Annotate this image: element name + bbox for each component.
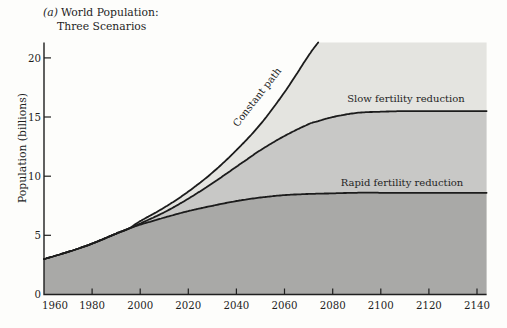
y-tick-label-10: 10 [28, 171, 41, 182]
band-rapid-scenario [44, 193, 487, 295]
x-tick-label-2120: 2120 [416, 300, 442, 311]
x-tick-label-2020: 2020 [175, 300, 201, 311]
figure-world-population-three-scenarios: 0510152019601980200020202040206020802100… [0, 0, 507, 328]
x-tick-label-2060: 2060 [272, 300, 298, 311]
x-tick-label-1960: 1960 [42, 300, 68, 311]
y-tick-label-0: 0 [35, 289, 41, 300]
y-tick-label-5: 5 [35, 230, 41, 241]
population-chart-svg: 0510152019601980200020202040206020802100… [0, 0, 507, 328]
x-tick-label-2000: 2000 [127, 300, 153, 311]
panel-letter: (a) [43, 6, 58, 19]
annotation-rapid-fertility-reduction: Rapid fertility reduction [341, 177, 464, 188]
x-tick-label-2080: 2080 [320, 300, 346, 311]
x-tick-label-2040: 2040 [223, 300, 249, 311]
chart-title: (a)World Population: Three Scenarios [43, 6, 159, 33]
y-tick-label-20: 20 [28, 53, 41, 64]
chart-title-line1: (a)World Population: [43, 6, 159, 20]
annotation-slow-fertility-reduction: Slow fertility reduction [347, 93, 465, 104]
y-tick-label-15: 15 [28, 112, 41, 123]
x-tick-label-2140: 2140 [464, 300, 490, 311]
chart-title-text: World Population: [61, 6, 159, 19]
x-tick-label-2100: 2100 [368, 300, 394, 311]
y-axis-label: Population (billions) [16, 93, 29, 203]
chart-title-line2: Three Scenarios [43, 20, 159, 34]
x-tick-label-1980: 1980 [79, 300, 105, 311]
